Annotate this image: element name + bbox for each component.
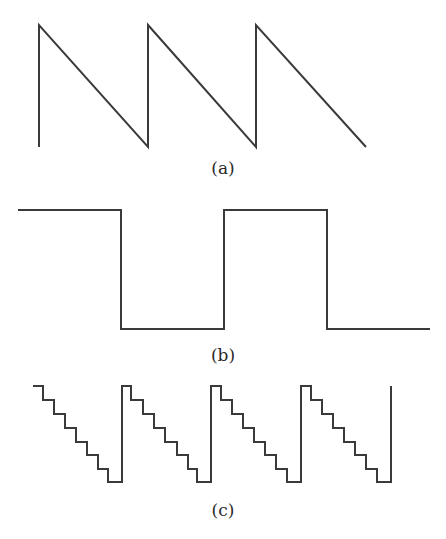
panel-a: (a) xyxy=(39,25,366,178)
panel-label-b: (b) xyxy=(211,345,235,365)
sawtooth-waveform xyxy=(39,25,366,147)
panel-label-a: (a) xyxy=(211,158,234,178)
waveform-figure: (a) (b) (c) xyxy=(0,0,446,539)
panel-c: (c) xyxy=(33,386,391,520)
staircase-waveform xyxy=(33,386,391,482)
panel-b: (b) xyxy=(18,210,430,365)
panel-label-c: (c) xyxy=(212,500,235,520)
square-waveform xyxy=(18,210,430,329)
